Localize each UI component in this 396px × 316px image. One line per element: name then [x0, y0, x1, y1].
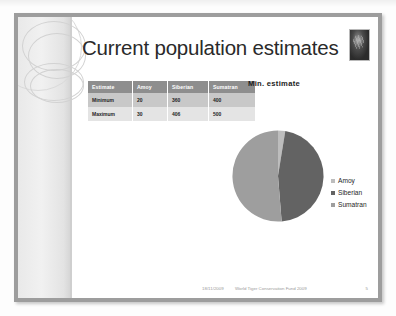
pie-slices	[232, 130, 323, 221]
legend-label: Siberian	[338, 189, 362, 196]
chart-title: Min. estimate	[248, 79, 300, 88]
table-row: Maximum 30 406 500	[88, 107, 255, 121]
table-cell-amoy: 30	[133, 107, 168, 121]
scanned-page: Current population estimates Estimate Am…	[0, 0, 396, 316]
slide-content: Current population estimates Estimate Am…	[72, 17, 378, 298]
pie-chart	[232, 130, 324, 222]
table-header-amoy: Amoy	[133, 81, 168, 93]
legend-label: Amoy	[338, 177, 355, 184]
table-header-siberian: Siberian	[168, 81, 209, 93]
footer-text: World Tiger Conservation Fund 2009	[235, 286, 307, 291]
footer-date: 18/11/2009	[202, 286, 224, 291]
slide-frame: Current population estimates Estimate Am…	[14, 13, 382, 302]
estimates-table: Estimate Amoy Siberian Sumatran Minimum …	[88, 81, 255, 121]
table-cell-sumatran: 500	[209, 107, 256, 121]
table-cell-siberian: 406	[168, 107, 209, 121]
table-cell-sumatran: 400	[209, 93, 256, 107]
slide-footer: 18/11/2009 World Tiger Conservation Fund…	[72, 282, 378, 291]
footer-page-number: 5	[366, 286, 368, 291]
table-cell-estimate: Minimum	[88, 93, 133, 107]
page-title: Current population estimates	[82, 36, 339, 60]
legend-swatch-icon	[331, 179, 335, 183]
table-cell-amoy: 20	[133, 93, 168, 107]
legend-item: Sumatran	[331, 201, 367, 208]
legend-swatch-icon	[331, 191, 335, 195]
legend-swatch-icon	[331, 203, 335, 207]
pie-slice-sumatran	[232, 130, 281, 221]
tiger-photo	[349, 29, 370, 61]
legend-item: Amoy	[331, 177, 367, 184]
legend-label: Sumatran	[338, 201, 367, 208]
table-row: Minimum 20 360 400	[88, 93, 255, 107]
decorative-left-band	[18, 17, 70, 298]
table-cell-siberian: 360	[168, 93, 209, 107]
table-header-row: Estimate Amoy Siberian Sumatran	[88, 81, 255, 93]
chart-legend: Amoy Siberian Sumatran	[331, 177, 367, 208]
table-cell-estimate: Maximum	[88, 107, 133, 121]
scan-top-band	[0, 0, 396, 7]
pie-slice-siberian	[278, 131, 324, 221]
pie-chart-svg	[232, 130, 324, 222]
slide-canvas: Current population estimates Estimate Am…	[18, 17, 378, 298]
table-header-estimate: Estimate	[88, 81, 133, 93]
legend-item: Siberian	[331, 189, 367, 196]
